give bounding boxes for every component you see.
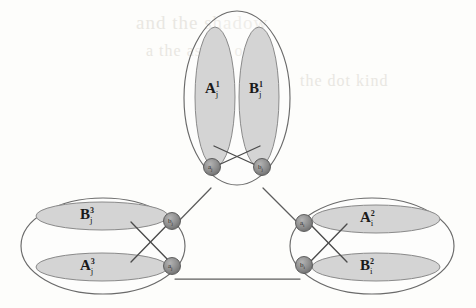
set-label-right-bottom: B2i — [360, 257, 373, 276]
set-label-top-right: B1j — [249, 80, 262, 99]
node-label-left-a: aj — [168, 262, 173, 271]
node-label-left-b: bj — [168, 217, 173, 226]
set-label-top-left-sup: 1 — [216, 80, 220, 89]
node-label-left-a-sub: j — [171, 266, 172, 271]
cluster-top — [184, 11, 290, 185]
set-label-top-right-sub: j — [259, 89, 262, 99]
set-label-right-top-sub: i — [371, 218, 374, 228]
set-label-right-top-base: A — [360, 209, 371, 225]
diagram-svg — [0, 0, 476, 308]
node-label-right-a-sub: i — [303, 223, 304, 228]
figure-canvas: and the shadow a the as the oni the dot … — [0, 0, 476, 308]
inter-cluster-edges — [172, 188, 303, 279]
node-label-right-b: bi — [300, 261, 305, 270]
set-label-right-bottom-sup: 2 — [370, 257, 374, 266]
set-label-left-top-base: B — [80, 206, 90, 222]
set-label-left-bottom-base: A — [80, 257, 91, 273]
node-label-right-b-sub: i — [304, 265, 305, 270]
set-label-left-bottom: A3j — [80, 257, 93, 276]
node-label-right-a: ai — [300, 219, 305, 228]
set-label-top-right-sup: 1 — [259, 80, 263, 89]
node-label-top-a-sub: j — [211, 167, 212, 172]
set-label-top-left-base: A — [205, 80, 216, 96]
set-left-bottom-ellipse — [36, 253, 168, 281]
node-label-top-a: aj — [208, 163, 213, 172]
set-label-left-bottom-sup: 3 — [91, 257, 95, 266]
set-right-top-ellipse — [312, 205, 440, 233]
set-label-left-top: B3j — [80, 206, 93, 225]
node-label-top-b: bj — [258, 163, 263, 172]
set-label-left-top-sub: j — [90, 215, 93, 225]
set-label-right-bottom-sub: i — [370, 266, 373, 276]
set-label-top-left-sub: j — [216, 89, 219, 99]
set-label-right-top: A2i — [360, 209, 373, 228]
set-label-top-left: A1j — [205, 80, 218, 99]
set-label-top-right-base: B — [249, 80, 259, 96]
set-label-left-top-sup: 3 — [90, 206, 94, 215]
set-label-right-top-sup: 2 — [371, 209, 375, 218]
cluster-left — [21, 198, 185, 294]
node-label-top-b-sub: j — [262, 167, 263, 172]
set-left-top-ellipse — [36, 202, 168, 230]
set-label-left-bottom-sub: j — [91, 266, 94, 276]
node-label-left-b-sub: j — [172, 221, 173, 226]
set-label-right-bottom-base: B — [360, 257, 370, 273]
set-right-bottom-ellipse — [312, 253, 440, 281]
